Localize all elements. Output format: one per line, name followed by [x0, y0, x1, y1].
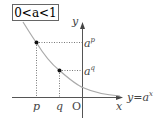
ap-label: ap [84, 36, 96, 50]
condition-label: 0<a<1 [14, 6, 57, 20]
point-p [35, 41, 39, 45]
exponential-graph: 0<a<1 y x O p q ap aq y=ax [0, 0, 168, 122]
y-axis-label: y [71, 15, 79, 28]
x-axis-label: x [116, 100, 123, 113]
curve-equation-label: y=ax [126, 90, 153, 104]
aq-label: aq [84, 64, 96, 78]
origin-label: O [72, 100, 81, 113]
curve [23, 22, 120, 96]
q-label: q [56, 100, 63, 113]
p-label: p [33, 100, 40, 113]
point-q [58, 69, 62, 73]
y-axis-arrow-icon [80, 22, 85, 29]
